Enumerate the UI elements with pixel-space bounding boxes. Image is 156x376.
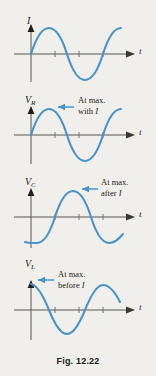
callout-text-resistor-voltage: At max.with I — [78, 95, 105, 116]
figure-container: I t VR t At max.with I — [0, 0, 156, 376]
t-axis-arrowhead — [126, 51, 135, 58]
plot-current — [0, 8, 156, 86]
t-axis-arrowhead — [126, 307, 135, 314]
panel-resistor-voltage: VR t At max.with I — [0, 88, 156, 168]
t-axis-arrowhead — [126, 132, 135, 139]
axis-label-capacitor-voltage: VC — [25, 176, 36, 189]
t-axis-arrowhead — [126, 214, 135, 221]
callout-text-capacitor-voltage: At max.after I — [101, 177, 128, 198]
panel-inductor-voltage: VL t At max.before I — [0, 258, 156, 344]
t-axis-label-capacitor-voltage: t — [139, 209, 142, 219]
plot-capacitor-voltage — [0, 172, 156, 254]
axis-label-current: I — [27, 15, 30, 26]
callout-arrowhead — [82, 186, 89, 192]
axis-label-inductor-voltage: VL — [25, 258, 35, 271]
waveform-curve-inductor-voltage — [31, 284, 120, 334]
value-axis-arrowhead — [28, 188, 35, 196]
t-axis-label-resistor-voltage: t — [139, 127, 142, 137]
t-axis-label-current: t — [139, 46, 142, 56]
callout-arrowhead — [38, 277, 45, 283]
t-axis-label-inductor-voltage: t — [139, 302, 142, 312]
callout-text-inductor-voltage: At max.before I — [58, 269, 85, 290]
axis-label-resistor-voltage: VR — [25, 94, 35, 107]
panel-capacitor-voltage: VC t At max.after I — [0, 172, 156, 254]
callout-arrowhead — [58, 104, 65, 110]
figure-caption: Fig. 12.22 — [0, 356, 156, 366]
panel-current: I t — [0, 8, 156, 86]
value-axis-arrowhead — [28, 106, 35, 114]
